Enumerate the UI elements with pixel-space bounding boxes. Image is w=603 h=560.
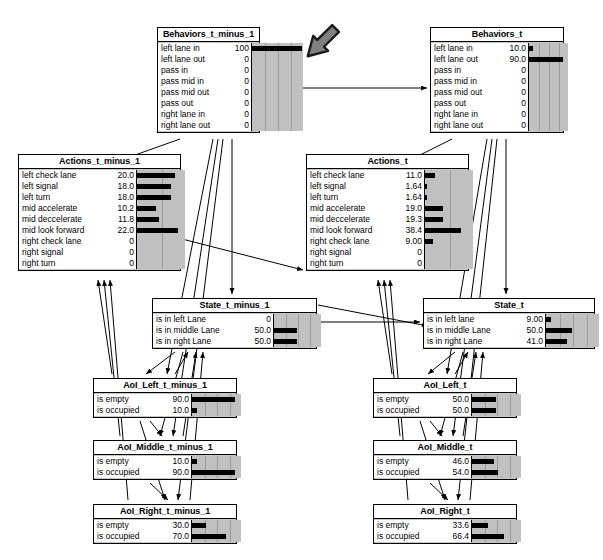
state-row[interactable]: is empty50.0: [374, 394, 516, 405]
state-row[interactable]: right check lane9.00: [307, 236, 468, 247]
node-aoi_right_t_minus_1[interactable]: AoI_Right_t_minus_1is empty30.0is occupi…: [93, 504, 237, 544]
state-row[interactable]: left lane in10.0: [431, 43, 563, 54]
state-row[interactable]: right lane out0: [431, 120, 563, 131]
state-row[interactable]: is in left lane9.00: [424, 314, 594, 325]
node-aoi_middle_t_minus_1[interactable]: AoI_Middle_t_minus_1is empty10.0is occup…: [93, 440, 237, 480]
bar-gridline: [278, 87, 279, 98]
bar-gridline: [278, 65, 279, 76]
state-row[interactable]: mid accelerate19.0: [307, 203, 468, 214]
state-probability-value: 22.0: [108, 225, 136, 236]
state-row[interactable]: pass mid out0: [158, 87, 259, 98]
state-row[interactable]: pass mid in0: [158, 76, 259, 87]
state-row[interactable]: left turn1.64: [307, 192, 468, 203]
state-row[interactable]: mid accelerate10.2: [19, 203, 180, 214]
node-state_t[interactable]: State_tis in left lane9.00is in middle L…: [423, 298, 595, 349]
node-body-aoi_middle_t_minus_1: is empty10.0is occupied90.0: [94, 455, 236, 479]
state-row[interactable]: is in left Lane0: [153, 314, 316, 325]
node-title-state_t_minus_1: State_t_minus_1: [153, 299, 316, 313]
node-title-state_t: State_t: [424, 299, 594, 313]
state-row[interactable]: left check lane11.0: [307, 170, 468, 181]
state-row[interactable]: left lane in100: [158, 43, 259, 54]
state-row[interactable]: pass in0: [431, 65, 563, 76]
state-row[interactable]: pass in0: [158, 65, 259, 76]
state-label: right lane out: [431, 120, 500, 131]
state-row[interactable]: left lane out0: [158, 54, 259, 65]
state-row[interactable]: is occupied10.0: [94, 405, 236, 416]
state-row[interactable]: mid deccelerate11.8: [19, 214, 180, 225]
bar-gridline: [162, 203, 163, 214]
state-probability-value: 11.8: [108, 214, 136, 225]
state-row[interactable]: is occupied70.0: [94, 531, 236, 542]
bar-gridline: [265, 109, 266, 120]
bar-fill: [425, 228, 461, 233]
node-aoi_left_t_minus_1[interactable]: AoI_Left_t_minus_1is empty90.0is occupie…: [93, 378, 237, 418]
state-row[interactable]: is in middle Lane50.0: [424, 325, 594, 336]
node-aoi_right_t[interactable]: AoI_Right_tis empty33.6is occupied66.4: [373, 504, 517, 544]
state-row[interactable]: pass out0: [431, 98, 563, 109]
node-state_t_minus_1[interactable]: State_t_minus_1is in left Lane0is in mid…: [152, 298, 317, 349]
state-row[interactable]: is occupied66.4: [374, 531, 516, 542]
node-aoi_middle_t[interactable]: AoI_Middle_tis empty46.0is occupied54.0: [373, 440, 517, 480]
node-actions_t[interactable]: Actions_tleft check lane11.0left signal1…: [306, 154, 469, 271]
node-behaviors_t_minus_1[interactable]: Behaviors_t_minus_1left lane in100left l…: [157, 27, 260, 133]
state-row[interactable]: pass mid out0: [431, 87, 563, 98]
bar-fill: [425, 184, 427, 189]
node-actions_t_minus_1[interactable]: Actions_t_minus_1left check lane20.0left…: [18, 154, 181, 271]
state-row[interactable]: mid look forward38.4: [307, 225, 468, 236]
state-row[interactable]: left check lane20.0: [19, 170, 180, 181]
state-label: is empty: [374, 394, 441, 405]
bar-gridline: [310, 314, 311, 325]
state-row[interactable]: right turn0: [19, 258, 180, 269]
state-probability-bar: [424, 181, 473, 192]
state-row[interactable]: right signal0: [19, 247, 180, 258]
state-probability-value: 0: [227, 65, 251, 76]
state-row[interactable]: is occupied50.0: [374, 405, 516, 416]
state-row[interactable]: is empty30.0: [94, 520, 236, 531]
state-row[interactable]: pass mid in0: [431, 76, 563, 87]
state-row[interactable]: right lane out0: [158, 120, 259, 131]
state-row[interactable]: is occupied54.0: [374, 467, 516, 478]
state-probability-value: 38.4: [396, 225, 424, 236]
state-row[interactable]: left lane out90.0: [431, 54, 563, 65]
state-row[interactable]: is occupied90.0: [94, 467, 236, 478]
node-body-aoi_right_t: is empty33.6is occupied66.4: [374, 519, 516, 543]
state-probability-value: 18.0: [108, 192, 136, 203]
state-row[interactable]: mid deccelerate19.3: [307, 214, 468, 225]
state-label: right check lane: [19, 236, 108, 247]
state-row[interactable]: mid look forward22.0: [19, 225, 180, 236]
state-probability-bar: [136, 170, 185, 181]
state-row[interactable]: is empty90.0: [94, 394, 236, 405]
node-aoi_left_t[interactable]: AoI_Left_tis empty50.0is occupied50.0: [373, 378, 517, 418]
state-probability-value: 66.4: [441, 531, 471, 542]
state-label: left lane out: [158, 54, 227, 65]
state-row[interactable]: right check lane0: [19, 236, 180, 247]
state-row[interactable]: left signal1.64: [307, 181, 468, 192]
state-row[interactable]: is in right Lane50.0: [153, 336, 316, 347]
state-label: right turn: [307, 258, 396, 269]
state-row[interactable]: left turn18.0: [19, 192, 180, 203]
bar-gridline: [230, 520, 231, 531]
state-probability-bar: [545, 314, 599, 325]
state-probability-value: 0: [227, 87, 251, 98]
state-row[interactable]: is empty33.6: [374, 520, 516, 531]
bar-gridline: [539, 109, 540, 120]
bar-gridline: [573, 336, 574, 347]
node-behaviors_t[interactable]: Behaviors_tleft lane in10.0left lane out…: [430, 27, 564, 133]
bar-gridline: [162, 236, 163, 247]
state-row[interactable]: is empty10.0: [94, 456, 236, 467]
state-row[interactable]: is empty46.0: [374, 456, 516, 467]
state-label: left signal: [19, 181, 108, 192]
bar-gridline: [497, 394, 498, 405]
state-row[interactable]: is in right Lane41.0: [424, 336, 594, 347]
state-row[interactable]: right lane in0: [158, 109, 259, 120]
bar-gridline: [497, 405, 498, 416]
state-row[interactable]: right lane in0: [431, 109, 563, 120]
state-probability-bar: [191, 467, 241, 478]
state-row[interactable]: is in middle Lane50.0: [153, 325, 316, 336]
state-row[interactable]: right signal0: [307, 247, 468, 258]
state-row[interactable]: right turn0: [307, 258, 468, 269]
state-row[interactable]: left signal18.0: [19, 181, 180, 192]
node-title-aoi_right_t: AoI_Right_t: [374, 505, 516, 519]
state-row[interactable]: pass out0: [158, 98, 259, 109]
state-probability-bar: [424, 192, 473, 203]
